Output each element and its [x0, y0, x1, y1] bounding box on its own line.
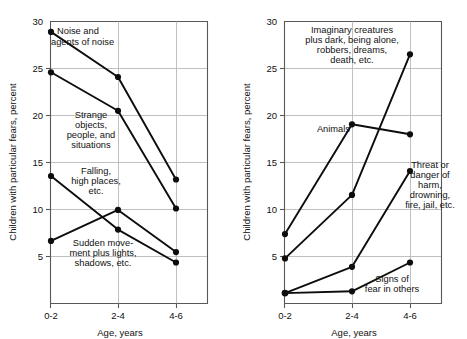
series-annotation-strange-line2: objects, [75, 120, 107, 130]
data-point [48, 69, 54, 75]
data-point [349, 288, 355, 294]
series-annotation-sudden: Sudden move- ment plus lights, shadows, … [69, 238, 136, 268]
series-annotation-threat-line5: fire, jail, etc. [405, 200, 455, 210]
series-annotation-imaginary: Imaginary creatures plus dark, being alo… [305, 25, 399, 65]
series-annotation-strange-line3: people, and [67, 130, 116, 140]
series-annotation-sudden-line3: shadows, etc. [75, 258, 132, 268]
data-point [48, 238, 54, 244]
x-tick-label-0-2: 0-2 [278, 310, 292, 321]
series-annotation-threat-line4: drowning, [410, 190, 450, 200]
series-annotation-threat-line1: Threat or [411, 160, 449, 170]
y-tick-label-30: 30 [32, 16, 43, 27]
y-tick-label-25: 25 [266, 63, 277, 74]
series-annotation-strange: Strange objects, people, and situations [67, 110, 116, 150]
series-annotation-sudden-line1: Sudden move- [73, 238, 133, 248]
x-axis-title: Age, years [97, 327, 143, 338]
series-annotation-sudden-line2: ment plus lights, [69, 248, 136, 258]
chart-panel-right: 30 25 20 15 10 5 0 [234, 0, 467, 339]
series-annotation-signs: Signs of fear in others [365, 274, 420, 294]
x-axis-title: Age, years [331, 327, 377, 338]
data-point [282, 231, 288, 237]
series-annotation-noise-line1: Noise and [57, 26, 99, 36]
series-annotation-threat-line2: danger of [410, 170, 450, 180]
series-annotation-animals: Animals [317, 124, 350, 134]
series-annotation-imaginary-line3: robbers, dreams, [317, 45, 387, 55]
series-annotation-falling-line2: high places, [71, 176, 121, 186]
data-point [407, 259, 413, 265]
series-annotation-imaginary-line2: plus dark, being alone, [305, 35, 399, 45]
y-tick-label-15: 15 [32, 157, 43, 168]
y-axis-title: Children with particular fears, percent [7, 83, 18, 241]
series-annotation-falling-line1: Falling, [81, 166, 111, 176]
right-chart-svg: 30 25 20 15 10 5 0 [234, 0, 467, 339]
x-tick-label-0-2: 0-2 [44, 310, 58, 321]
data-point [115, 207, 121, 213]
series-annotation-threat-line3: harm, [418, 180, 442, 190]
chart-panel-left: 30 25 20 15 10 5 [0, 0, 233, 339]
data-point [173, 259, 179, 265]
data-point [407, 51, 413, 57]
x-tick-label-2-4: 2-4 [111, 310, 125, 321]
data-point [349, 264, 355, 270]
series-annotation-imaginary-line1: Imaginary creatures [311, 25, 394, 35]
series-line-strange [51, 72, 176, 208]
series-annotation-threat: Threat or danger of harm, drowning, fire… [405, 160, 455, 210]
series-annotation-falling: Falling, high places, etc. [71, 166, 121, 196]
series-annotation-signs-line1: Signs of [375, 274, 409, 284]
y-tick-label-20: 20 [32, 110, 43, 121]
figure-container: 30 25 20 15 10 5 [0, 0, 467, 339]
y-tick-label-10: 10 [32, 204, 43, 215]
series-annotation-strange-line4: situations [71, 140, 111, 150]
data-point [282, 290, 289, 297]
series-line-animals [285, 124, 410, 234]
data-point [115, 227, 121, 233]
y-tick-label-15: 15 [266, 157, 277, 168]
data-point [115, 108, 121, 114]
series-annotation-signs-line2: fear in others [365, 284, 420, 294]
data-point [173, 205, 179, 211]
data-point [282, 255, 288, 261]
series-annotation-strange-line1: Strange [75, 110, 108, 120]
series-line-noise [51, 32, 176, 180]
x-tick-label-4-6: 4-6 [403, 310, 417, 321]
x-tick-label-4-6: 4-6 [169, 310, 183, 321]
data-point [407, 131, 413, 137]
series-annotation-imaginary-line4: death, etc. [330, 55, 373, 65]
data-point [115, 74, 121, 80]
series-annotation-noise: Noise and agents of noise [51, 26, 114, 47]
data-point [48, 173, 54, 179]
data-point [173, 176, 179, 182]
left-chart-svg: 30 25 20 15 10 5 [0, 0, 233, 339]
y-axis-title: Children with particular fears, percent [241, 83, 252, 241]
y-tick-label-25: 25 [32, 63, 43, 74]
y-tick-label-5: 5 [272, 251, 277, 262]
series-line-imaginary [285, 54, 410, 258]
y-tick-label-10: 10 [266, 204, 277, 215]
series-annotation-animals-line1: Animals [317, 124, 350, 134]
data-point [173, 249, 179, 255]
data-point [48, 29, 54, 35]
series-annotation-falling-line3: etc. [89, 186, 104, 196]
y-tick-label-5: 5 [38, 251, 43, 262]
data-point [349, 192, 355, 198]
y-tick-label-30: 30 [266, 16, 277, 27]
series-annotation-noise-line2: agents of noise [51, 37, 114, 47]
x-tick-label-2-4: 2-4 [345, 310, 359, 321]
y-tick-label-20: 20 [266, 110, 277, 121]
